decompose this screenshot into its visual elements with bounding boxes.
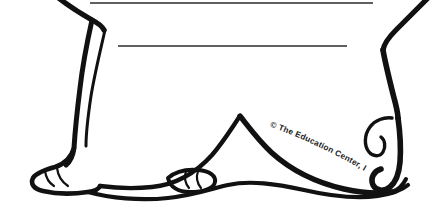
clipart-artboard: © The Education Center, Inc. bbox=[0, 0, 430, 214]
worksheet-clipart-page: Animal Body Worksheet Clipart bbox=[0, 0, 430, 214]
